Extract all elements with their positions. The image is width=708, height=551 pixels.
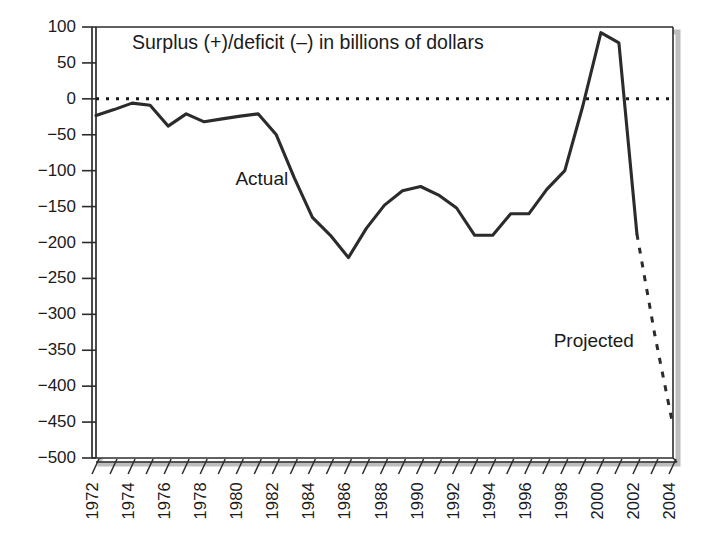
y-tick-label: −50	[6, 126, 76, 143]
x-tick-label: 1972	[84, 482, 101, 520]
x-tick-label: 1986	[336, 482, 353, 520]
x-tick-label: 1988	[373, 482, 390, 520]
x-tick-label: 1992	[445, 482, 462, 520]
x-tick-label: 2000	[589, 482, 606, 520]
y-tick-label: −150	[6, 198, 76, 215]
x-tick-label: 1980	[228, 482, 245, 520]
y-tick-label: −300	[6, 305, 76, 322]
x-tick-label: 1994	[481, 482, 498, 520]
chart-title: Surplus (+)/deficit (–) in billions of d…	[132, 31, 484, 54]
actual-series-label: Actual	[235, 168, 288, 190]
x-tick-label: 1978	[192, 482, 209, 520]
y-tick-marks	[82, 27, 96, 458]
y-tick-label: 100	[6, 18, 76, 35]
x-tick-label: 2004	[661, 482, 678, 520]
y-tick-label: −100	[6, 162, 76, 179]
y-tick-label: 0	[6, 90, 76, 107]
x-tick-label: 1990	[409, 482, 426, 520]
x-tick-label: 1996	[517, 482, 534, 520]
deficit-line-chart	[0, 0, 708, 551]
y-tick-label: −400	[6, 377, 76, 394]
y-tick-label: −250	[6, 269, 76, 286]
projected-series-label: Projected	[554, 330, 634, 352]
x-tick-label: 1984	[300, 482, 317, 520]
y-tick-label: −500	[6, 449, 76, 466]
x-axis	[92, 458, 677, 462]
x-tick-label: 2002	[625, 482, 642, 520]
x-tick-label: 1976	[156, 482, 173, 520]
y-tick-label: −200	[6, 234, 76, 251]
y-tick-label: −450	[6, 413, 76, 430]
x-tick-label: 1974	[120, 482, 137, 520]
y-tick-label: −350	[6, 341, 76, 358]
y-tick-label: 50	[6, 54, 76, 71]
x-tick-label: 1982	[264, 482, 281, 520]
chart-figure: 100500−50−100−150−200−250−300−350−400−45…	[0, 0, 708, 551]
x-tick-label: 1998	[553, 482, 570, 520]
